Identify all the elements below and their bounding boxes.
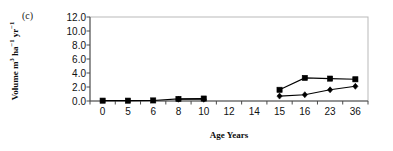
series-diamond-series [176, 83, 358, 102]
data-point-diamond [353, 83, 358, 89]
data-point-square [100, 98, 105, 103]
data-point-diamond [277, 93, 282, 99]
series-line [280, 86, 356, 96]
series-square-series [100, 75, 358, 103]
data-point-square [125, 98, 130, 103]
plot-area [0, 0, 393, 151]
plot-frame [90, 17, 368, 101]
data-point-square [151, 98, 156, 103]
figure-panel-c: (c) Volume m3 ha−1 yr−1 0.02.04.06.08.01… [0, 0, 393, 151]
data-point-diamond [302, 92, 307, 98]
data-point-square [277, 87, 282, 92]
data-point-square [353, 77, 358, 82]
data-point-square [302, 75, 307, 80]
data-point-diamond [327, 87, 332, 93]
data-point-square [327, 76, 332, 81]
